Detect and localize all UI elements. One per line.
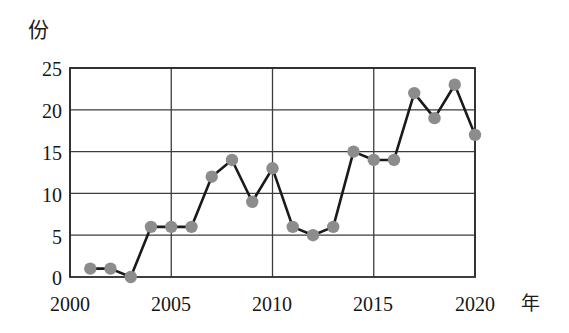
data-line (90, 85, 475, 277)
data-point (104, 262, 116, 274)
data-point (125, 271, 137, 283)
data-point (307, 229, 319, 241)
line-chart: 份 年 25 20 15 10 5 0 2000 2005 2010 2015 … (0, 0, 569, 333)
data-point (266, 162, 278, 174)
data-point (287, 221, 299, 233)
data-point (408, 87, 420, 99)
data-point (185, 221, 197, 233)
data-point (246, 196, 258, 208)
data-point (388, 154, 400, 166)
data-point (469, 129, 481, 141)
data-point (84, 262, 96, 274)
chart-canvas (0, 0, 569, 333)
data-point (165, 221, 177, 233)
data-point (449, 79, 461, 91)
data-point (145, 221, 157, 233)
data-point (368, 154, 380, 166)
data-point (327, 221, 339, 233)
data-point (206, 170, 218, 182)
data-point (347, 145, 359, 157)
data-point (428, 112, 440, 124)
data-point (226, 154, 238, 166)
